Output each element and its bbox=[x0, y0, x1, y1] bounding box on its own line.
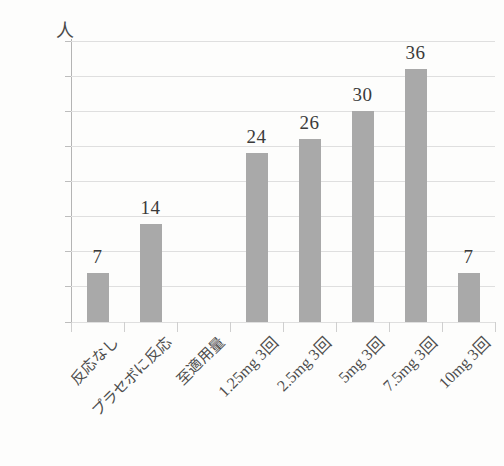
y-axis-tick bbox=[65, 251, 71, 252]
y-axis-tick bbox=[65, 146, 71, 147]
chart-figure: 人 0510152025303540 714242630367 反応なしプラセボ… bbox=[0, 0, 504, 466]
x-axis-category-label: 反応なし bbox=[25, 334, 122, 431]
gridline bbox=[71, 76, 495, 77]
bar bbox=[299, 139, 321, 322]
x-axis-tick bbox=[389, 322, 390, 332]
gridline bbox=[71, 41, 495, 42]
gridline bbox=[71, 251, 495, 252]
bar bbox=[458, 273, 480, 322]
bar-value-label: 7 bbox=[72, 247, 124, 266]
x-axis-category-label: 2.5mg 3回 bbox=[237, 334, 334, 431]
bar-value-label: 26 bbox=[284, 113, 336, 132]
y-axis-tick bbox=[65, 286, 71, 287]
x-axis-tick bbox=[230, 322, 231, 332]
bar bbox=[352, 111, 374, 322]
plot-area: 0510152025303540 714242630367 bbox=[71, 41, 495, 322]
gridline bbox=[71, 146, 495, 147]
y-axis-tick bbox=[65, 181, 71, 182]
bar-value-label: 7 bbox=[443, 247, 495, 266]
x-axis-tick bbox=[283, 322, 284, 332]
bar bbox=[140, 224, 162, 322]
x-axis-tick bbox=[177, 322, 178, 332]
x-axis-tick bbox=[336, 322, 337, 332]
x-axis-category-label: 10mg 3回 bbox=[396, 334, 493, 431]
y-axis-tick bbox=[65, 216, 71, 217]
x-axis-category-label: 7.5mg 3回 bbox=[343, 334, 440, 431]
bar-value-label: 36 bbox=[390, 43, 442, 62]
y-axis-tick bbox=[65, 76, 71, 77]
x-axis-tick bbox=[495, 322, 496, 332]
gridline bbox=[71, 181, 495, 182]
bar-value-label: 24 bbox=[231, 127, 283, 146]
y-axis-unit-label: 人 bbox=[56, 22, 74, 40]
bar-value-label: 30 bbox=[337, 85, 389, 104]
bar bbox=[405, 69, 427, 322]
x-axis-tick bbox=[442, 322, 443, 332]
gridline bbox=[71, 111, 495, 112]
gridline bbox=[71, 286, 495, 287]
x-axis-tick bbox=[124, 322, 125, 332]
bar-value-label: 14 bbox=[125, 198, 177, 217]
bar bbox=[87, 273, 109, 322]
x-axis-category-label: 5mg 3回 bbox=[290, 334, 387, 431]
x-axis-tick bbox=[71, 322, 72, 332]
y-axis-tick bbox=[65, 41, 71, 42]
bar bbox=[246, 153, 268, 322]
y-axis-tick bbox=[65, 111, 71, 112]
